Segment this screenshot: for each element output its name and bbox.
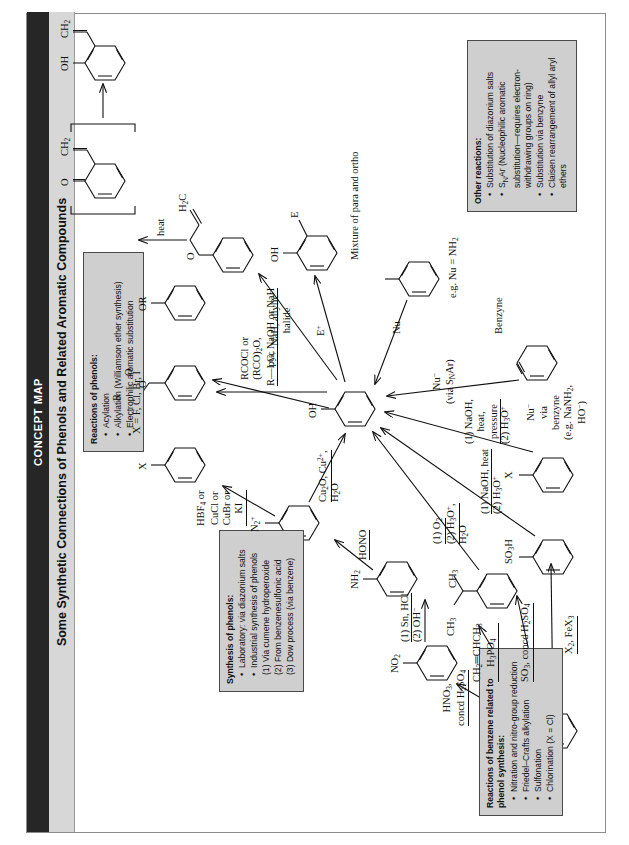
ring-allyl-aryl-ether — [190, 209, 253, 272]
label-ester-carbonyl-oxygen: O — [123, 368, 135, 376]
ring-aniline — [363, 562, 417, 596]
label-diazo-hydrolysis-2: H2O — [329, 483, 343, 502]
box-synthesis-of-phenols: Synthesis of phenols: Laboratory: via di… — [219, 530, 304, 692]
box-sub-list: (1) Via cumene hydroperoxide (2) From be… — [261, 538, 296, 684]
label-nitro-substituent: NO2 — [389, 654, 403, 673]
label-reduction-step-2: (2) OH− — [411, 608, 424, 642]
label-ortho-allylphenol-ch2: CH2 — [59, 20, 73, 38]
label-cumene-methyl-top: CH3 — [447, 570, 461, 588]
list-item: Claisen rearrangement of allyl aryl ethe… — [547, 48, 570, 195]
label-friedel-crafts-reagent: CH2═CHCH3H3PO4 — [471, 623, 499, 682]
label-amino-substituent: NH2 — [349, 570, 363, 589]
ring-ortho-allylphenol — [73, 31, 125, 81]
list-item: Industrial synthesis of phenols — [249, 538, 260, 675]
label-eas-product-oh: OH — [269, 247, 281, 262]
ring-cumene — [454, 574, 517, 608]
ring-aryl-nu — [385, 262, 439, 296]
label-sandmeyer-reagents: HBF4 orCuCl orCuBr orKI — [195, 490, 247, 526]
label-sulfonate-fusion-2: (2) H3O+ — [491, 476, 505, 514]
label-electrophile: E+ — [315, 325, 328, 336]
list-item: (3) Dow process (via benzene) — [285, 538, 296, 675]
ring-benzenesulfonic — [519, 540, 573, 574]
list-item: SNAr (Nucleophilic aromatic substitution… — [497, 48, 534, 195]
label-benzyne-conditions: Nu−viabenzyne(e.g. NaNH2,HO−) — [525, 385, 589, 440]
label-halide-substituent: X — [137, 462, 149, 470]
label-halogenation-reagent: X2, FeX3 — [563, 616, 578, 654]
label-claisen-heat: heat — [155, 219, 167, 237]
label-benzyne-name: Benzyne — [493, 297, 505, 334]
label-diazotization-reagent: HONO — [357, 530, 370, 560]
label-nucleophile-arrow: Nu — [391, 321, 403, 334]
label-sulfonic-substituent: SO3H — [503, 539, 517, 564]
label-cumene-oxidation-3: H2O — [457, 525, 471, 544]
label-allyl-terminal-ch2: H2C — [177, 194, 191, 212]
list-item: Acylation — [101, 260, 112, 435]
label-cumene-oxidation-1: (1) O2 — [431, 518, 446, 544]
label-dienone-terminal-ch2: CH2 — [59, 138, 73, 156]
label-nucleophile-example: e.g. Nu = NH2 — [447, 237, 461, 298]
label-dienone-carbonyl-oxygen: O — [59, 178, 71, 186]
label-sulfonation-reagent: SO3, concd H2SO4 — [519, 603, 534, 682]
box-item-list: Laboratory: via diazonium salts Industri… — [237, 538, 260, 684]
label-eas-product-e: E — [289, 212, 301, 218]
box-title: Synthesis of phenols: — [225, 538, 236, 684]
label-halide-substituent-bottom: X — [503, 471, 515, 479]
list-item: Chlorination (X = Cl) — [545, 656, 556, 799]
label-snar-conditions: Nu−(via SNAr) — [431, 359, 457, 404]
label-dow-process-2: (2) H3O+ — [499, 406, 513, 444]
label-eas-regio-note: Mixture of para and ortho — [349, 152, 361, 260]
rotated-figure-wrapper: CONCEPT MAP Some Synthetic Connections o… — [0, 0, 629, 845]
list-item: (2) From benzenesulfonic acid — [273, 538, 284, 675]
label-ortho-allylphenol-oh: OH — [59, 56, 71, 71]
label-ether-substituent: OR — [137, 296, 149, 311]
label-ester-r-group: R — [111, 394, 123, 401]
list-item: Substitution of diazonium salts — [485, 48, 496, 195]
list-item: Alkylation (Williamson ether synthesis) — [113, 260, 124, 435]
label-dow-process-1: (1) NaOH,heat,pressure — [463, 399, 501, 444]
list-item: Sulfonation — [533, 656, 544, 799]
ring-benzyne — [517, 346, 558, 380]
dienone-intermediate — [71, 124, 135, 214]
list-item: (1) Via cumene hydroperoxide — [261, 538, 272, 675]
box-other-reactions: Other reactions: Substitution of diazoni… — [467, 40, 577, 212]
label-phenol-hydroxyl: OH — [307, 403, 319, 418]
label-cumene-methyl-side: CH3 — [445, 618, 459, 636]
box-title: Reactions of phenols: — [89, 260, 100, 444]
label-allylation-reagent: NaH, allylichalide — [269, 295, 294, 346]
label-allyl-ether-oxygen: O — [185, 252, 197, 260]
list-item: Laboratory: via diazonium salts — [237, 538, 248, 675]
ring-phenol-central — [321, 392, 375, 426]
box-title: Other reactions: — [473, 48, 484, 204]
figure-sheet: CONCEPT MAP Some Synthetic Connections o… — [26, 13, 606, 833]
ring-aryl-ether — [151, 286, 205, 320]
ring-aryl-halide-bottom — [519, 458, 573, 492]
concept-map-page: CONCEPT MAP Some Synthetic Connections o… — [0, 0, 629, 845]
label-nitration-reagent: HNO3,concd H2SO4 — [441, 670, 469, 726]
list-item: Substitution via benzyne — [535, 48, 546, 195]
label-ester-ether-oxygen: O — [137, 380, 149, 388]
ring-aryl-halide — [151, 448, 205, 482]
ring-eas-product — [283, 220, 337, 270]
label-diazonium-substituent: N2+ — [249, 517, 263, 532]
box-item-list: Substitution of diazonium salts SNAr (Nu… — [485, 48, 569, 204]
